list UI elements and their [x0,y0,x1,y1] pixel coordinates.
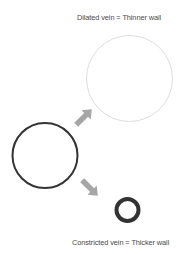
normal-vein-circle [13,123,78,188]
constricted-vein-circle [117,199,139,221]
constricted-vein-label: Constricted vein = Thicker wall [72,238,169,247]
dilated-vein-label: Dilated vein = Thinner wall [77,13,161,22]
dilated-vein-circle [87,36,173,122]
vein-diagram [0,0,191,254]
arrow-down-right-icon [78,176,103,201]
arrow-up-right-icon [72,105,97,130]
